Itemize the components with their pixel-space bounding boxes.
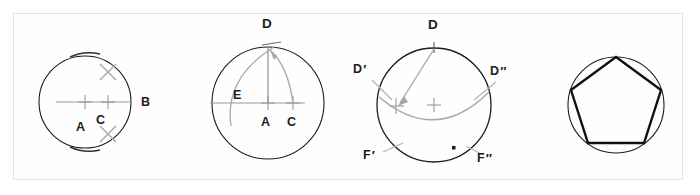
inscribed-pentagon [571, 57, 661, 143]
circle-outline-panel4 [568, 57, 664, 153]
panel-step-4-completed-pentagon [0, 0, 700, 195]
figure-canvas: A C B D E A C [0, 0, 700, 195]
